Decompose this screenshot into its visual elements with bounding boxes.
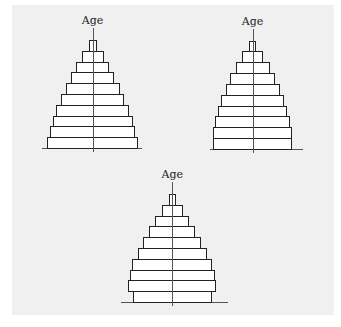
age-axis-line bbox=[93, 28, 94, 152]
age-axis-label: Age bbox=[82, 15, 104, 26]
age-axis-line bbox=[253, 29, 254, 154]
age-axis-line bbox=[172, 182, 173, 306]
age-axis-label: Age bbox=[162, 169, 184, 180]
age-axis-label: Age bbox=[242, 16, 264, 27]
